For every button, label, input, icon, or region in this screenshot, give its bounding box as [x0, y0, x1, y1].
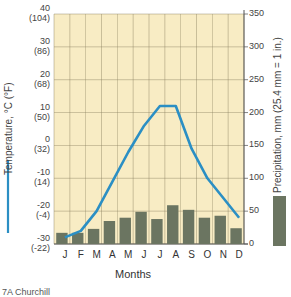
month-label: J	[152, 249, 168, 260]
figure-caption: 7A Churchill	[2, 287, 50, 297]
precipitation-bar	[151, 219, 162, 244]
x-axis-label: Months	[115, 268, 151, 280]
month-label: M	[89, 249, 105, 260]
month-label: A	[104, 249, 120, 260]
left-tick-fahrenheit: (104)	[16, 14, 50, 23]
month-label: M	[120, 249, 136, 260]
right-tick-label: 100	[249, 173, 273, 182]
right-tick-label: 50	[249, 206, 273, 215]
precipitation-bar	[167, 205, 178, 244]
left-tick-fahrenheit: (32)	[16, 145, 50, 154]
precipitation-axis-label: Precipitation, mm (25.4 mm = 1 in.)	[272, 37, 283, 193]
month-label: J	[57, 249, 73, 260]
right-tick-label: 200	[249, 108, 273, 117]
left-tick-celsius: -20	[16, 201, 50, 210]
left-tick-fahrenheit: (86)	[16, 47, 50, 56]
left-tick-fahrenheit: (-22)	[16, 244, 50, 253]
precipitation-bar	[56, 233, 67, 244]
right-tick-label: 300	[249, 42, 273, 51]
left-tick-celsius: 40	[16, 4, 50, 13]
precipitation-bar	[183, 210, 194, 244]
left-tick-fahrenheit: (68)	[16, 80, 50, 89]
left-tick-fahrenheit: (-4)	[16, 211, 50, 220]
precipitation-bar	[120, 218, 131, 244]
month-label: O	[199, 249, 215, 260]
precipitation-bar	[88, 229, 99, 244]
left-tick-celsius: 10	[16, 103, 50, 112]
month-label: D	[231, 249, 247, 260]
month-label: J	[136, 249, 152, 260]
left-tick-celsius: -10	[16, 168, 50, 177]
month-label: S	[184, 249, 200, 260]
left-tick-celsius: 0	[16, 135, 50, 144]
month-label: A	[168, 249, 184, 260]
precipitation-bar	[104, 221, 115, 244]
precipitation-bar	[199, 218, 210, 244]
precipitation-bar	[135, 212, 146, 244]
right-tick-label: 150	[249, 140, 273, 149]
left-tick-celsius: 30	[16, 37, 50, 46]
left-tick-fahrenheit: (14)	[16, 178, 50, 187]
month-label: N	[215, 249, 231, 260]
precipitation-bar	[215, 216, 226, 244]
precipitation-legend-swatch	[273, 196, 286, 246]
left-tick-celsius: 20	[16, 70, 50, 79]
right-tick-label: 250	[249, 75, 273, 84]
month-label: F	[73, 249, 89, 260]
right-tick-label: 0	[249, 239, 273, 248]
right-tick-label: 350	[249, 9, 273, 18]
left-tick-fahrenheit: (50)	[16, 113, 50, 122]
temperature-axis-label: Temperature, °C (°F)	[3, 83, 14, 175]
precipitation-bar	[230, 228, 241, 244]
left-tick-celsius: -30	[16, 234, 50, 243]
